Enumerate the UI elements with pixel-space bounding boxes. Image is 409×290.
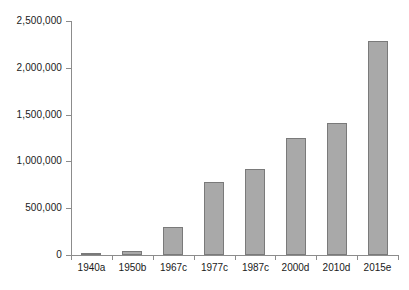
- bar: [163, 227, 183, 255]
- bar: [245, 169, 265, 255]
- x-axis-category-label: 1940a: [71, 262, 112, 273]
- bar-chart: 2,500,000 2,000,000 1,500,000 1,000,000 …: [0, 0, 409, 290]
- y-axis-tick-label: 2,000,000: [0, 63, 62, 73]
- x-axis-category-label: 1977c: [194, 262, 235, 273]
- x-axis-tick-mark: [398, 256, 399, 260]
- x-axis-category-label: 2000d: [275, 262, 316, 273]
- bar: [327, 123, 347, 255]
- x-axis-category-label: 1987c: [235, 262, 276, 273]
- bar: [122, 251, 142, 255]
- y-axis-tick-label: 1,500,000: [0, 110, 62, 120]
- x-axis-tick-mark: [194, 256, 195, 260]
- x-axis-tick-mark: [275, 256, 276, 260]
- y-axis-tick-label: 0: [0, 250, 62, 260]
- y-axis-tick-label: 1,000,000: [0, 156, 62, 166]
- x-axis-tick-mark: [153, 256, 154, 260]
- x-axis-tick-mark: [316, 256, 317, 260]
- x-axis-category-label: 2010d: [316, 262, 357, 273]
- bar: [81, 253, 101, 255]
- y-axis-line: [71, 21, 72, 256]
- y-axis-tick-label: 2,500,000: [0, 16, 62, 26]
- x-axis-category-label: 1950b: [112, 262, 153, 273]
- bar: [204, 182, 224, 255]
- x-axis-category-label: 2015e: [357, 262, 398, 273]
- y-axis-tick-label: 500,000: [0, 203, 62, 213]
- x-axis-tick-mark: [235, 256, 236, 260]
- x-axis-tick-mark: [112, 256, 113, 260]
- x-axis-tick-mark: [357, 256, 358, 260]
- x-axis-category-label: 1967c: [153, 262, 194, 273]
- bar: [368, 41, 388, 255]
- x-axis-tick-mark: [71, 256, 72, 260]
- bar: [286, 138, 306, 255]
